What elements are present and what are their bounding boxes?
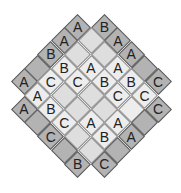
puzzle-board: ABAABABAAACCBBCACCABCCAACBABC: [0, 0, 181, 193]
